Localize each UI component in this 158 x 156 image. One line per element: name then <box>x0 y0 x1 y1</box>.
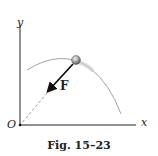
origin-label: O <box>7 119 16 130</box>
motion-blur <box>78 62 92 70</box>
x-axis-label: x <box>141 117 147 128</box>
line-of-action-dashed <box>21 93 47 124</box>
particle-ball <box>72 56 81 65</box>
figure-caption: Fig. 15–23 <box>0 140 158 151</box>
origin-dot <box>19 124 22 127</box>
diagram-canvas <box>0 0 158 156</box>
trajectory-curve <box>27 58 121 114</box>
y-axis-label: y <box>17 17 23 28</box>
force-label: F <box>60 80 69 92</box>
